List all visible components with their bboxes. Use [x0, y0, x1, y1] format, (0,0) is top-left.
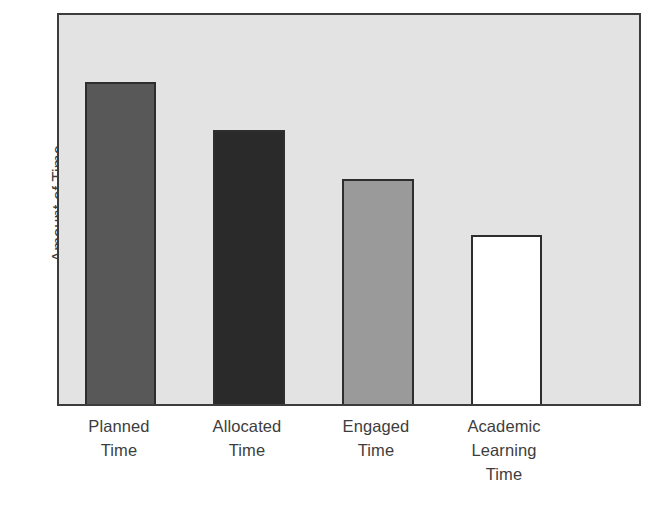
plot-area: [57, 13, 641, 406]
x-axis-label-3: Engaged Time: [316, 414, 436, 462]
cropped-title-fragment: · ·: [0, 0, 654, 11]
bar-4: [471, 235, 542, 404]
x-axis-label-2: Allocated Time: [187, 414, 307, 462]
bar-2: [213, 130, 285, 404]
x-axis-labels: Planned TimeAllocated TimeEngaged TimeAc…: [57, 414, 641, 510]
bar-1: [85, 82, 156, 404]
x-axis-label-4: Academic Learning Time: [444, 414, 564, 486]
bar-3: [342, 179, 414, 404]
y-axis-label: Amount of Time: [0, 0, 54, 406]
x-axis-label-1: Planned Time: [59, 414, 179, 462]
cropped-title-text: · ·: [320, 0, 335, 6]
